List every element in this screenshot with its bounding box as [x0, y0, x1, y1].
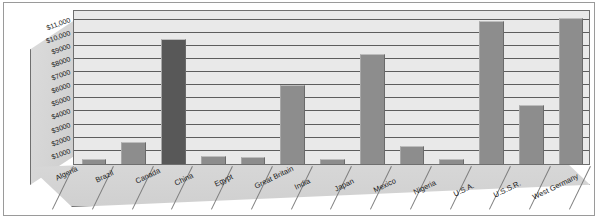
bar [82, 159, 107, 164]
bar [360, 54, 385, 164]
bar [280, 85, 305, 164]
gridline [74, 84, 589, 85]
bar [241, 157, 266, 164]
gridline [74, 19, 589, 20]
plot-area [73, 10, 590, 165]
bar [479, 21, 504, 164]
bar-chart-figure: $1000$2000$3000$4000$5000$6000$7000$8000… [0, 0, 600, 220]
bar [320, 159, 345, 164]
gridline [74, 32, 589, 33]
bar [559, 18, 584, 164]
chart-3d-scene: $1000$2000$3000$4000$5000$6000$7000$8000… [0, 0, 600, 220]
bar [519, 105, 544, 164]
gridline [74, 97, 589, 98]
gridline [74, 58, 589, 59]
gridline [74, 150, 589, 151]
bar [439, 159, 464, 164]
bar [400, 146, 425, 164]
gridline [74, 137, 589, 138]
bar [161, 39, 186, 164]
bar [201, 156, 226, 164]
gridline [74, 45, 589, 46]
gridline [74, 124, 589, 125]
gridline [74, 110, 589, 111]
gridline [74, 71, 589, 72]
bar [121, 142, 146, 164]
